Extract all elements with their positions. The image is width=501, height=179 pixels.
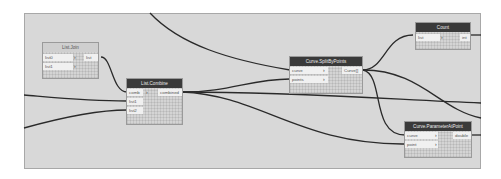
node-curve-split-by-points[interactable]: Curve.SplitByPoints curve › points › Cur…: [289, 56, 363, 94]
node-title: List.Combine: [127, 79, 182, 88]
lacing-icon: ›: [323, 76, 325, 83]
output-port-curves[interactable]: Curve[]: [342, 67, 362, 74]
lacing-icon: ›: [74, 63, 76, 70]
input-port-curve[interactable]: curve: [405, 132, 438, 139]
input-port-list[interactable]: list: [416, 34, 440, 41]
node-title: List.Join: [43, 43, 98, 52]
input-port-list0[interactable]: list0: [43, 54, 73, 61]
output-port-int[interactable]: int: [460, 34, 470, 41]
node-list-join[interactable]: List.Join list0 list1 › › list: [42, 42, 99, 79]
node-title: Curve.ParameterAtPoint: [405, 122, 471, 131]
node-list-combine[interactable]: List.Combine comb › combined list1 list2: [126, 78, 183, 125]
output-port-combined[interactable]: combined: [158, 89, 182, 96]
lacing-icon: ›: [323, 67, 325, 74]
input-port-list1[interactable]: list1: [43, 63, 73, 70]
node-curve-parameter-at-point[interactable]: Curve.ParameterAtPoint curve › point › d…: [404, 121, 472, 158]
lacing-icon: ›: [74, 54, 76, 61]
input-port-comb[interactable]: comb: [127, 89, 143, 96]
input-port-point[interactable]: point: [405, 141, 438, 148]
output-port-double[interactable]: double: [453, 132, 471, 139]
input-port-list2[interactable]: list2: [127, 107, 143, 114]
output-port-list[interactable]: list: [84, 54, 98, 61]
input-port-list1[interactable]: list1: [127, 98, 143, 105]
node-title: Count: [416, 23, 470, 32]
lacing-icon: ›: [435, 141, 437, 148]
lacing-icon: ›: [441, 34, 443, 41]
lacing-icon: ›: [146, 89, 148, 96]
node-title: Curve.SplitByPoints: [290, 57, 362, 66]
node-count[interactable]: Count list › int: [415, 22, 471, 50]
lacing-icon: ›: [435, 132, 437, 139]
